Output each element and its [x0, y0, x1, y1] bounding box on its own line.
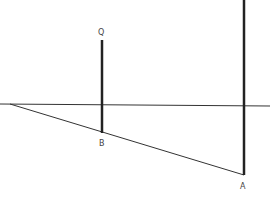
geometry-figure: Q B A [0, 0, 270, 203]
label-A: A [240, 182, 246, 191]
label-B: B [99, 139, 105, 148]
diagram-canvas: Q B A [0, 0, 270, 203]
shadow-diagonal-line [10, 104, 244, 175]
ground-line [0, 104, 270, 106]
label-Q: Q [98, 28, 104, 37]
